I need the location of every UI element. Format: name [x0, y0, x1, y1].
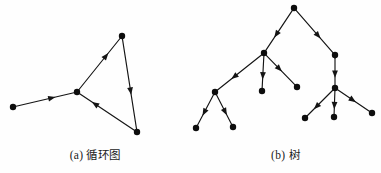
edge-left-to-midleaf [262, 56, 264, 88]
arrow-head-icon [202, 108, 208, 116]
node-left-mid-leaf [259, 88, 265, 94]
node-root [291, 5, 297, 11]
cyclic-graph-drawing [0, 0, 190, 146]
edge-left-to-hub [16, 93, 74, 107]
caption-tree-graph: (b) 树 [190, 146, 381, 162]
edge-hub-to-top [79, 38, 120, 89]
edge-bottomright-to-hub [80, 94, 135, 130]
node-rightmost-leaf [369, 110, 375, 116]
edge-left-to-subbranch [218, 55, 262, 90]
node-right-left-leaf [302, 115, 308, 121]
node-left-branch [261, 50, 267, 56]
node-bottom-right [134, 129, 140, 135]
node-right-branch [332, 52, 338, 58]
node-left-right-leaf [294, 84, 300, 90]
arrow-head-icon [127, 87, 133, 95]
tree-graph-drawing [190, 0, 381, 146]
edge-root-to-right [296, 10, 333, 52]
caption-cyclic-graph: (a) 循环图 [0, 146, 190, 162]
edge-top-to-bottomright [122, 39, 136, 129]
arrow-head-icon [332, 70, 338, 77]
node-top [119, 33, 125, 39]
node-left-subbranch [212, 89, 218, 95]
node-left-inner-leaf [230, 124, 236, 130]
node-hub [74, 89, 80, 95]
arrow-head-icon [274, 30, 281, 38]
arrow-head-icon [221, 107, 227, 115]
arrow-head-icon [348, 96, 356, 103]
arrow-head-icon [260, 72, 266, 80]
arrow-head-icon [92, 102, 100, 109]
node-right-mid-leaf [331, 114, 337, 120]
figure-container: (a) 循环图 (b) 树 [0, 0, 381, 173]
edge-rightsub-to-leftleaf [307, 90, 332, 115]
node-left-end [10, 104, 16, 110]
arrow-head-icon [332, 102, 338, 109]
panel-tree-graph: (b) 树 [190, 0, 381, 173]
node-right-subbranch [332, 85, 338, 91]
panel-cyclic-graph: (a) 循环图 [0, 0, 190, 173]
node-leftmost-leaf [193, 125, 199, 131]
edge-root-to-left [266, 11, 292, 51]
